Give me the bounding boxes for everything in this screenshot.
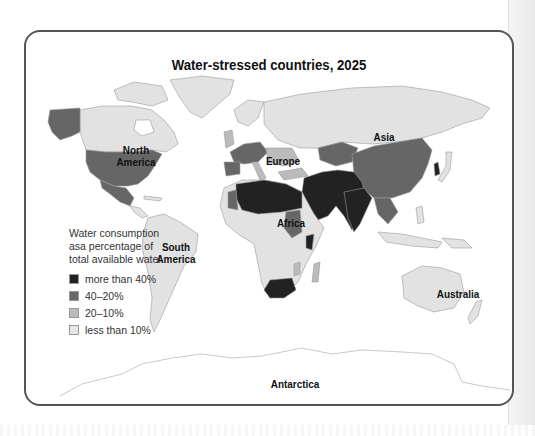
indochina bbox=[374, 198, 398, 224]
label-north-america: North America bbox=[109, 144, 163, 168]
korea bbox=[434, 162, 440, 176]
mozambique bbox=[294, 262, 300, 276]
new-guinea bbox=[442, 238, 472, 248]
greenland bbox=[170, 76, 234, 118]
label-africa: Africa bbox=[269, 217, 314, 229]
central-america bbox=[130, 206, 148, 218]
alaska bbox=[48, 108, 80, 140]
legend-swatch bbox=[69, 325, 79, 335]
legend-swatch bbox=[69, 291, 79, 301]
map-legend: Water consumption asa percentage of tota… bbox=[69, 227, 162, 338]
label-asia: Asia bbox=[366, 131, 402, 143]
cuba bbox=[144, 196, 162, 201]
legend-item-40-20: 40–20% bbox=[69, 287, 162, 304]
legend-item-less-than-10: less than 10% bbox=[69, 321, 162, 338]
label-europe: Europe bbox=[261, 155, 306, 167]
legend-label: less than 10% bbox=[85, 324, 151, 336]
legend-label: more than 40% bbox=[85, 273, 156, 285]
legend-item-more-than-40: more than 40% bbox=[69, 270, 162, 287]
legend-title: Water consumption asa percentage of tota… bbox=[69, 227, 162, 266]
japan bbox=[438, 152, 452, 182]
label-australia: Australia bbox=[431, 288, 485, 300]
india bbox=[344, 188, 372, 232]
map-frame: Water-stressed countries, 2025 bbox=[24, 30, 514, 406]
legend-swatch bbox=[69, 308, 79, 318]
arctic-islands bbox=[114, 82, 168, 106]
iberia bbox=[224, 162, 240, 176]
madagascar bbox=[312, 262, 320, 282]
legend-title-line: asa percentage of bbox=[69, 240, 162, 253]
legend-label: 40–20% bbox=[85, 290, 124, 302]
new-zealand bbox=[468, 300, 482, 324]
label-line: North bbox=[109, 144, 163, 156]
legend-title-line: total available water bbox=[69, 253, 162, 266]
page-bottom-texture bbox=[0, 425, 535, 436]
legend-item-20-10: 20–10% bbox=[69, 304, 162, 321]
turkey bbox=[278, 168, 308, 180]
label-antarctica: Antarctica bbox=[264, 378, 327, 390]
label-line: America bbox=[109, 156, 163, 168]
scandinavia bbox=[234, 100, 264, 126]
legend-label: 20–10% bbox=[85, 307, 124, 319]
philippines bbox=[416, 206, 424, 224]
legend-title-line: Water consumption bbox=[69, 227, 162, 240]
indonesia bbox=[378, 232, 442, 248]
uk bbox=[224, 130, 234, 148]
west-sahara bbox=[228, 190, 238, 210]
north-africa bbox=[236, 180, 302, 214]
legend-swatch bbox=[69, 274, 79, 284]
